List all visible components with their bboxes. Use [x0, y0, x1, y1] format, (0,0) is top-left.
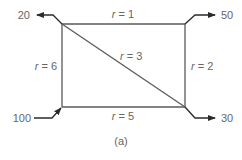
edge-label-right: r = 2 [191, 60, 213, 72]
network-diagram: 20 50 30 100 r = 1 r = 6 r = 2 r = 5 r =… [0, 0, 242, 160]
flow-out-30-arrow-icon [185, 107, 215, 118]
edge-label-bottom: r = 5 [112, 110, 134, 122]
flow-out-50-arrow-icon [185, 15, 215, 24]
figure-caption: (a) [114, 135, 127, 147]
flow-out-20-arrow-icon [37, 15, 62, 24]
edge-label-left: r = 6 [35, 60, 57, 72]
flow-in-100-arrow-icon [34, 108, 61, 118]
edge-label-diagonal: r = 3 [120, 50, 142, 62]
edge-label-top: r = 1 [112, 8, 134, 20]
flow-label-30: 30 [221, 112, 233, 124]
flow-label-50: 50 [221, 9, 233, 21]
flow-label-20: 20 [18, 9, 30, 21]
edge-diagonal [62, 24, 185, 107]
flow-label-100: 100 [13, 112, 31, 124]
